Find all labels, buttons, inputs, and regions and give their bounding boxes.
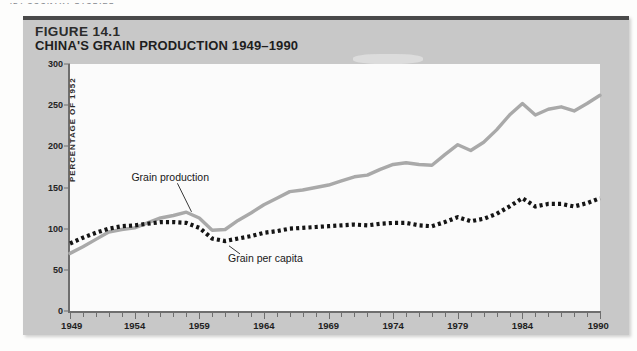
x-axis-tick-mark-minor <box>83 311 84 317</box>
x-axis-tick-mark-major <box>329 311 330 319</box>
x-axis-tick-mark-minor <box>225 311 226 317</box>
x-axis-tick-mark-major <box>458 311 459 319</box>
x-axis-tick-mark-minor <box>122 311 123 317</box>
x-axis-tick-mark-minor <box>160 311 161 317</box>
x-axis-tick-mark-minor <box>277 311 278 317</box>
figure-page: 424 COUNTRY STUDIES FIGURE 14.1 CHINA'S … <box>0 0 637 351</box>
x-axis-tick-mark-minor <box>303 311 304 317</box>
x-axis-tick-mark-major <box>70 311 71 319</box>
x-axis-tick-mark-major <box>135 311 136 319</box>
x-axis-tick-mark-minor <box>497 311 498 317</box>
x-axis-tick-label: 1964 <box>253 320 274 331</box>
x-axis-tick-mark-minor <box>380 311 381 317</box>
figure-number: FIGURE 14.1 <box>35 24 120 39</box>
annotation-leader-lines <box>70 64 600 311</box>
x-axis-tick-mark-minor <box>290 311 291 317</box>
x-axis-tick-mark-major <box>264 311 265 319</box>
x-axis-tick-mark-minor <box>212 311 213 317</box>
x-axis-tick-mark-minor <box>471 311 472 317</box>
x-axis-tick-mark-minor <box>587 311 588 317</box>
x-axis-tick-mark-minor <box>316 311 317 317</box>
x-axis-tick-label: 1979 <box>447 320 468 331</box>
x-axis-tick-mark-minor <box>406 311 407 317</box>
x-axis-tick-mark-minor <box>251 311 252 317</box>
x-axis-tick-mark-minor <box>109 311 110 317</box>
x-axis-tick-mark-minor <box>419 311 420 317</box>
x-axis-tick-mark-minor <box>186 311 187 317</box>
x-axis-tick-mark-minor <box>548 311 549 317</box>
x-axis-tick-mark-minor <box>561 311 562 317</box>
x-axis-tick-mark-minor <box>354 311 355 317</box>
x-axis-tick-label: 1954 <box>124 320 145 331</box>
figure-title: CHINA'S GRAIN PRODUCTION 1949–1990 <box>35 38 298 53</box>
x-axis-tick-label: 1984 <box>512 320 533 331</box>
x-axis-tick-label: 1949 <box>61 320 82 331</box>
x-axis-tick-label: 1974 <box>383 320 404 331</box>
leader-grain-per-capita <box>229 246 240 254</box>
x-axis-tick-mark-minor <box>96 311 97 317</box>
x-axis-tick-mark-minor <box>510 311 511 317</box>
x-axis-tick-mark-major <box>522 311 523 319</box>
x-axis-tick-mark-minor <box>367 311 368 317</box>
plot-area: PERCENTAGE OF 1952 050100150200250300194… <box>68 64 600 313</box>
running-head: 424 COUNTRY STUDIES <box>8 0 115 6</box>
x-axis-tick-mark-minor <box>341 311 342 317</box>
x-axis-tick-mark-minor <box>445 311 446 317</box>
x-axis-tick-mark-major <box>393 311 394 319</box>
x-axis-tick-mark-minor <box>432 311 433 317</box>
x-axis-tick-label: 1990 <box>588 320 609 331</box>
x-axis-tick-mark-minor <box>173 311 174 317</box>
x-axis-tick-mark-minor <box>484 311 485 317</box>
x-axis-tick-mark-major <box>199 311 200 319</box>
x-axis-tick-label: 1959 <box>189 320 210 331</box>
x-axis-tick-mark-minor <box>574 311 575 317</box>
x-axis-tick-mark-minor <box>238 311 239 317</box>
x-axis-tick-mark-minor <box>535 311 536 317</box>
x-axis-tick-label: 1969 <box>318 320 339 331</box>
x-axis-tick-mark-minor <box>148 311 149 317</box>
leader-grain-production <box>177 183 191 212</box>
x-axis-tick-mark-major <box>600 311 601 319</box>
